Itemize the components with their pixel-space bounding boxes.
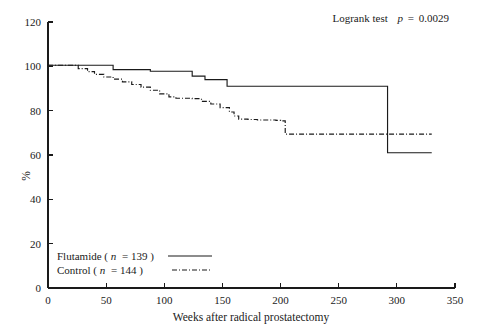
y-tick-label: 60: [30, 149, 42, 161]
y-axis-ticks: 020406080100120: [25, 16, 54, 294]
logrank-annotation: Logrank test p = 0.0029: [332, 12, 449, 24]
x-tick-label: 100: [156, 294, 173, 306]
y-tick-label: 100: [25, 60, 42, 72]
y-axis-title: %: [20, 171, 32, 181]
logrank-relation: =: [408, 12, 414, 24]
chart-legend: Flutamide ( n = 139 ) Control ( n = 144 …: [57, 250, 212, 277]
y-tick-label: 40: [30, 193, 42, 205]
plot-canvas: 020406080100120 050100150200250300350 % …: [0, 0, 483, 333]
logrank-p-symbol: p: [397, 12, 404, 24]
legend-flutamide-n-symbol: n: [111, 250, 117, 262]
curve-control: [48, 65, 432, 134]
y-tick-label: 80: [30, 105, 42, 117]
legend-label-flutamide: Flutamide ( n = 139 ): [57, 250, 154, 263]
x-tick-label: 150: [214, 294, 231, 306]
legend-control-prefix: Control (: [57, 264, 97, 277]
survival-curve-figure: 020406080100120 050100150200250300350 % …: [0, 0, 483, 333]
logrank-prefix: Logrank test: [332, 12, 387, 24]
legend-control-n-value: = 144: [111, 264, 137, 276]
y-tick-label: 0: [36, 282, 42, 294]
x-axis-ticks: 050100150200250300350: [45, 283, 464, 306]
x-tick-label: 350: [447, 294, 464, 306]
logrank-p-value: 0.0029: [419, 12, 450, 24]
x-tick-label: 50: [101, 294, 113, 306]
curve-flutamide: [48, 65, 432, 153]
x-tick-label: 200: [272, 294, 289, 306]
x-axis-title: Weeks after radical prostatectomy: [173, 311, 330, 324]
y-tick-label: 120: [25, 16, 42, 28]
legend-label-control: Control ( n = 144 ): [57, 264, 143, 277]
x-tick-label: 0: [45, 294, 51, 306]
x-tick-label: 250: [330, 294, 347, 306]
axes-group: [48, 22, 455, 288]
legend-control-n-symbol: n: [100, 264, 106, 276]
legend-flutamide-n-value: = 139: [122, 250, 148, 262]
legend-control-suffix: ): [139, 264, 143, 277]
survival-curves: [48, 65, 432, 153]
logrank-annotation-text: Logrank test p = 0.0029: [332, 12, 449, 24]
y-tick-label: 20: [30, 238, 42, 250]
legend-flutamide-prefix: Flutamide (: [57, 250, 108, 263]
legend-flutamide-suffix: ): [150, 250, 154, 263]
x-tick-label: 300: [389, 294, 406, 306]
